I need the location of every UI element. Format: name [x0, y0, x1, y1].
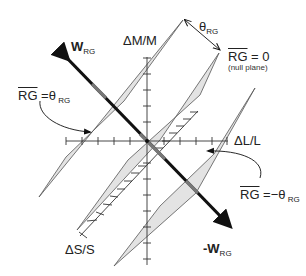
positive-plane-label: RG =θ RG — [18, 87, 70, 103]
diagram-canvas: ΔM/M ΔL/L ΔS/S WRG -WRG θRG RG = 0 (null… — [0, 0, 306, 276]
null-plane-note: (null plane) — [228, 64, 268, 72]
pointer-positive — [40, 101, 90, 132]
w-rg-label: WRG — [71, 38, 95, 54]
null-plane-label: RG = 0 — [228, 48, 270, 64]
plane-positive — [39, 20, 183, 197]
axis-label-dM: ΔM/M — [123, 34, 157, 47]
axis-label-dL: ΔL/L — [234, 134, 261, 147]
neg-w-rg-label: -WRG — [203, 240, 232, 256]
axis-label-dS: ΔS/S — [65, 243, 95, 256]
theta-rg-label: θRG — [199, 18, 218, 34]
negative-plane-label: RG =−θ RG — [240, 186, 300, 202]
